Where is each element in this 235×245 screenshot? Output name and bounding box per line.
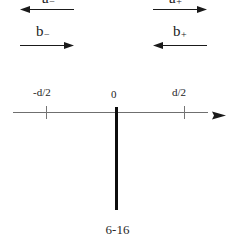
horizontal-axis bbox=[13, 112, 208, 113]
amplitude-label-b-plus: b+ bbox=[173, 24, 187, 40]
tick-label-d-over-2: d/2 bbox=[172, 87, 186, 98]
figure-6-16: a− a+ b− b+ bbox=[0, 0, 235, 245]
subscript-plus: + bbox=[181, 29, 187, 40]
arrow-b-minus-right bbox=[20, 41, 74, 50]
tick-label-zero: 0 bbox=[111, 89, 117, 100]
amplitude-group-b-minus: b− bbox=[0, 24, 110, 52]
tick-mark-d-over-2 bbox=[184, 106, 185, 119]
arrow-a-minus-left bbox=[20, 5, 74, 14]
amplitude-label-b-minus: b− bbox=[36, 24, 50, 40]
tick-label-minus-d-over-2: -d/2 bbox=[33, 87, 51, 98]
arrow-a-plus-right bbox=[153, 5, 207, 14]
figure-caption: 6-16 bbox=[0, 223, 235, 236]
amplitude-group-a-minus: a− bbox=[0, 0, 110, 26]
barrier-at-origin bbox=[115, 107, 118, 210]
subscript-minus: − bbox=[44, 29, 50, 40]
arrow-b-plus-left bbox=[153, 41, 207, 50]
axis-arrowhead-right bbox=[204, 107, 226, 125]
amplitude-group-b-plus: b+ bbox=[125, 24, 235, 52]
tick-mark-minus-d-over-2 bbox=[46, 106, 47, 119]
